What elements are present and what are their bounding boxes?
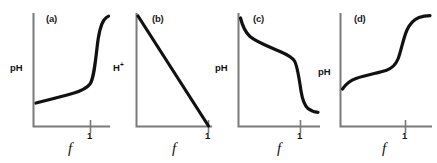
panel-b-ylabel: H+ [113, 62, 124, 73]
panel-a-plot [0, 0, 112, 163]
panel-d-label: (d) [354, 13, 366, 24]
panel-a-xtick-label: 1 [87, 130, 92, 141]
panel-c-xlabel: f [277, 140, 281, 157]
titration-curve-figure: (a) pH 1 f (b) H+ 1 f (c) pH 1 f [0, 0, 437, 163]
panel-c: (c) pH 1 f [222, 0, 328, 163]
panel-c-plot [222, 0, 328, 163]
panel-d-curve [343, 16, 431, 89]
panel-c-ylabel: pH [215, 62, 228, 73]
panel-b-xlabel: f [172, 140, 176, 157]
panel-c-curve [241, 18, 319, 112]
panel-c-label: (c) [253, 13, 264, 24]
panel-a-xlabel: f [68, 140, 72, 157]
panel-a-ylabel: pH [10, 62, 23, 73]
panel-a-label: (a) [46, 13, 57, 24]
panel-d-xtick-label: 1 [402, 130, 407, 141]
panel-b-label: (b) [152, 13, 164, 24]
panel-b: (b) H+ 1 f [112, 0, 222, 163]
panel-c-xtick-label: 1 [297, 130, 302, 141]
panel-b-curve [138, 16, 209, 126]
panel-d: (d) pH 1 f [328, 0, 437, 163]
panel-a: (a) pH 1 f [0, 0, 112, 163]
panel-b-xtick-label: 1 [205, 130, 210, 141]
panel-d-plot [328, 0, 437, 163]
panel-d-ylabel: pH [318, 66, 331, 77]
panel-a-curve [36, 16, 109, 103]
panel-d-xlabel: f [382, 140, 386, 157]
